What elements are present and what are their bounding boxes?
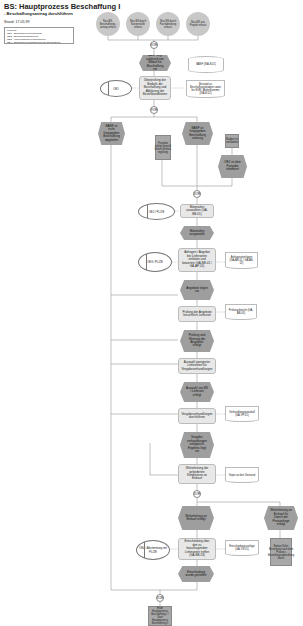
event-freigegeben[interactable]: BANF ist freigegeben Beschaffung zulässi… (182, 122, 213, 145)
xor-connector[interactable]: XOR (150, 41, 158, 49)
doc-bestand[interactable]: Bestand zu Beschaffungsbudget sowie bis … (186, 80, 225, 98)
start-event[interactable]: Neu BS durch Fachabteilung erfasst (156, 12, 180, 36)
start-event[interactable]: Neu BS aus Projekt erfasst (186, 12, 210, 36)
stand-date: Stand: 17.05.99 (4, 20, 29, 24)
event-weiter-erfolgt[interactable]: Weiterleitung an Einkauf erfolgt (178, 506, 214, 530)
page-title: BS: Hauptprozess Beschaffung I (4, 3, 120, 11)
function-auswahl[interactable]: Auswahl geeigneter Lieferanten für Verga… (178, 358, 216, 374)
doc-banf[interactable]: BANF (ISA-B.01) (188, 56, 224, 73)
start-event[interactable]: Neu BS-Beschaffungs-antrag erfasst (96, 12, 120, 36)
org-unit-oe1[interactable]: OE1 (100, 80, 132, 97)
event-entscheidung[interactable]: Entscheidung wurde getroffen (178, 566, 214, 582)
function-anfragen[interactable]: Anfragen / Angebot bei Lieferanten einho… (178, 248, 216, 272)
event-material[interactable]: Materialien ausgewählt (180, 226, 214, 240)
note-unterschrift: Freigabe erfolgt gemäß Unterschriften-re… (155, 135, 171, 160)
function-weiterleitung[interactable]: Weiterleitung der geforderten Konditione… (178, 464, 216, 484)
doc-verhandlung[interactable]: Verhandlungsprotokoll (GA-VP-01) (225, 406, 259, 422)
doc-entscheidung[interactable]: Entscheidungsvorlage (GA-VS-01) (225, 540, 259, 556)
doc-pruefung[interactable]: Prüfungsbericht (GA-AB-03) (225, 304, 257, 320)
event-pruefung[interactable]: Prüfung und Wertung der Angebote erfolgt (180, 330, 214, 352)
note-budget: Budget ist vorhanden (225, 134, 239, 148)
event-bedarf[interactable]: BANF liegt aufgrund von Bedarf für Besch… (139, 55, 171, 71)
event-angebote[interactable]: Angebote liegen vor (180, 280, 214, 300)
function-pruefen[interactable]: Überprüfung der Bedarfs der Beschaffung … (139, 76, 171, 100)
event-auswahl[interactable]: Auswahl von BS / Lieferant erfolgt (180, 382, 214, 402)
xor-connector[interactable]: XOR (193, 190, 201, 198)
event-verhandlung[interactable]: Vergabe-verhandlungen erfolgreich, Ergeb… (180, 432, 214, 458)
page-subtitle: - Beschaffungsantrag durchführen (4, 11, 73, 16)
doc-anfragen[interactable]: Anfrageunterlagen (GA-AB-01 / GA-AB-02) (225, 252, 258, 269)
function-verhandlung[interactable]: Vergabeverhandlungen durchführen (178, 408, 216, 424)
start-event[interactable]: Neu BS durch Kostenstelle erfasst (126, 12, 150, 36)
xor-connector[interactable]: XOR (150, 106, 158, 114)
xor-connector[interactable]: XOR (193, 490, 201, 498)
end-note: Ende Hauptprozess Beschaffung I / Start … (148, 606, 172, 626)
note-bestellung: Einkauf führt Bestellung nach dem Prozes… (270, 538, 292, 566)
doc-weiterleitung[interactable]: Kopie an den Vorstand (225, 467, 259, 483)
org-unit-oe3[interactable]: OE3 / PL/ZE (138, 252, 172, 272)
legend-item: OE4 - Bedarfstelle/Fachabteilung der Bes… (7, 41, 71, 44)
org-unit-oe2[interactable]: OE2 / PL/ZE (138, 203, 175, 220)
function-entscheidung[interactable]: Entscheidung über den zu beauftragenden … (178, 538, 216, 560)
legend-box: Legende: OE1 - Bedarfstelle/Projektleitu… (4, 27, 74, 44)
event-weiter-preisanfrage[interactable]: Weiterleitung an Einkauf für Zweck der P… (264, 506, 298, 530)
xor-connector[interactable]: XOR (156, 594, 164, 602)
event-nicht-freigegeben[interactable]: BANF ist nicht freigegeben Beschaffung a… (98, 122, 125, 145)
event-budget-info[interactable]: OE2 ist über Freigabe informiert (218, 155, 247, 178)
org-unit-oe4[interactable]: OE4 / Abstimmung mit PL/ZE (136, 540, 170, 560)
function-material[interactable]: Materialien auswählen (GA-BB-01) (180, 204, 214, 218)
function-pruefung[interactable]: Prüfung der Angebote hinsichtlich Liefer… (178, 306, 216, 322)
